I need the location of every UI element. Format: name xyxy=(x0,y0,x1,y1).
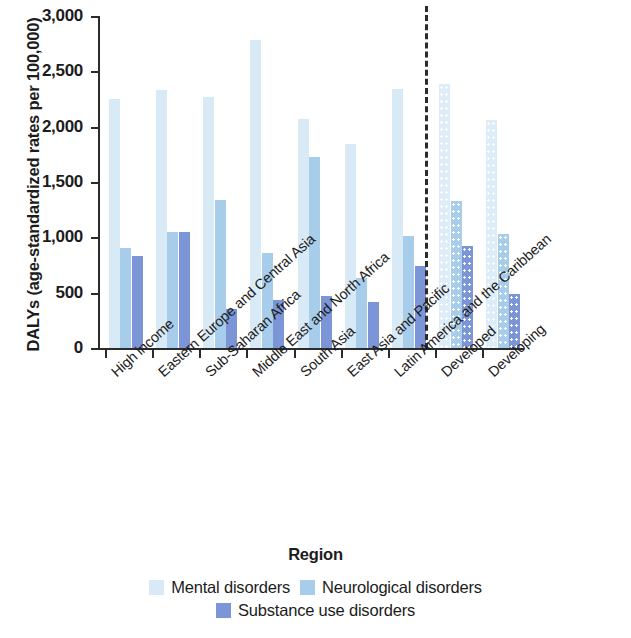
bar xyxy=(439,84,450,348)
legend-item-substance-use-disorders[interactable]: Substance use disorders xyxy=(216,601,415,620)
legend-item-mental-disorders[interactable]: Mental disorders xyxy=(149,578,290,597)
bar xyxy=(156,90,167,348)
x-axis-tick xyxy=(341,350,343,358)
y-axis-tick: 500 xyxy=(91,293,98,295)
legend-label-neurological-disorders: Neurological disorders xyxy=(322,578,482,597)
y-axis-tick: 1,500 xyxy=(91,182,98,184)
y-axis-line xyxy=(98,16,100,349)
plot-area: 05001,0001,5002,0002,5003,000 xyxy=(98,16,523,348)
legend-label-mental-disorders: Mental disorders xyxy=(171,578,290,597)
x-axis-tick xyxy=(152,350,154,358)
bar xyxy=(132,256,143,348)
y-axis-tick: 2,500 xyxy=(91,71,98,73)
bar xyxy=(392,89,403,348)
bar-group xyxy=(109,16,143,348)
y-axis-tick: 0 xyxy=(91,348,98,350)
bar xyxy=(120,248,131,348)
y-axis-tick-label: 1,000 xyxy=(42,227,83,247)
bar xyxy=(109,99,120,348)
x-axis-tick xyxy=(199,350,201,358)
y-axis-tick-label: 3,000 xyxy=(42,6,83,26)
y-axis-tick: 2,000 xyxy=(91,127,98,129)
y-axis-tick-label: 1,500 xyxy=(42,172,83,192)
y-axis-title: DALYs (age-standardized rates per 100,00… xyxy=(24,5,43,365)
legend-item-neurological-disorders[interactable]: Neurological disorders xyxy=(300,578,482,597)
y-axis-tick-label: 0 xyxy=(74,338,83,358)
x-axis-tick xyxy=(435,350,437,358)
bar-group xyxy=(156,16,190,348)
bar xyxy=(345,144,356,348)
legend-row-bottom: Substance use disorders xyxy=(0,601,631,620)
bar xyxy=(203,97,214,348)
legend-row-top: Mental disorders Neurological disorders xyxy=(0,578,631,597)
legend-swatch-icon-substance-use-disorders xyxy=(216,603,231,618)
x-axis-tick xyxy=(482,350,484,358)
dalys-by-region-bar-chart: DALYs (age-standardized rates per 100,00… xyxy=(0,0,631,638)
bar xyxy=(179,232,190,348)
y-axis-tick-label: 500 xyxy=(56,283,83,303)
x-axis-tick xyxy=(105,350,107,358)
x-axis-title: Region xyxy=(0,545,631,564)
x-axis-tick xyxy=(388,350,390,358)
y-axis-tick: 1,000 xyxy=(91,237,98,239)
bar xyxy=(486,120,497,348)
y-axis-tick-label: 2,500 xyxy=(42,61,83,81)
chart-legend: Mental disorders Neurological disorders … xyxy=(0,578,631,624)
y-axis-tick-label: 2,000 xyxy=(42,117,83,137)
y-axis-tick: 3,000 xyxy=(91,16,98,18)
x-axis-tick xyxy=(246,350,248,358)
legend-swatch-icon-mental-disorders xyxy=(149,580,164,595)
legend-swatch-icon-neurological-disorders xyxy=(300,580,315,595)
legend-label-substance-use-disorders: Substance use disorders xyxy=(238,601,415,620)
x-axis-tick xyxy=(294,350,296,358)
